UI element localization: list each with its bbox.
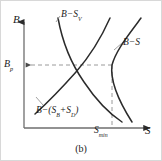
plot-canvas (0, 0, 162, 161)
curve-b-minus-s (112, 18, 141, 122)
leader-line-bsbsd (36, 97, 43, 105)
y-axis-label: B (13, 14, 20, 25)
figure-panel-b: B S Bp Smin B−SV B−S B−(SB+SD) (b) (0, 0, 162, 161)
bsv-base: B−S (61, 9, 78, 19)
x-tick-label-smin: Smin (94, 126, 108, 136)
curve-label-b-minus-sv: B−SV (61, 10, 82, 20)
bsbsd-subscript-b: B (56, 112, 60, 118)
bs-base: B−S (123, 37, 140, 47)
x-axis-label: S (145, 125, 151, 136)
curve-label-b-minus-s: B−S (123, 38, 140, 48)
curve-label-b-minus-sb-sd: B−(SB+SD) (36, 106, 78, 116)
bsbsd-mid: +S (60, 105, 71, 115)
bsbsd-head: B−(S (36, 105, 56, 115)
bsbsd-tail: ) (75, 105, 78, 115)
bsbsd-subscript-d: D (71, 112, 75, 118)
bp-subscript: p (10, 65, 13, 72)
curve-b-minus-sb-sd (35, 18, 110, 114)
figure-caption: (b) (0, 143, 162, 154)
smin-subscript: min (99, 132, 108, 138)
y-tick-label-bp: Bp (4, 59, 13, 69)
bsv-subscript: V (78, 16, 82, 22)
